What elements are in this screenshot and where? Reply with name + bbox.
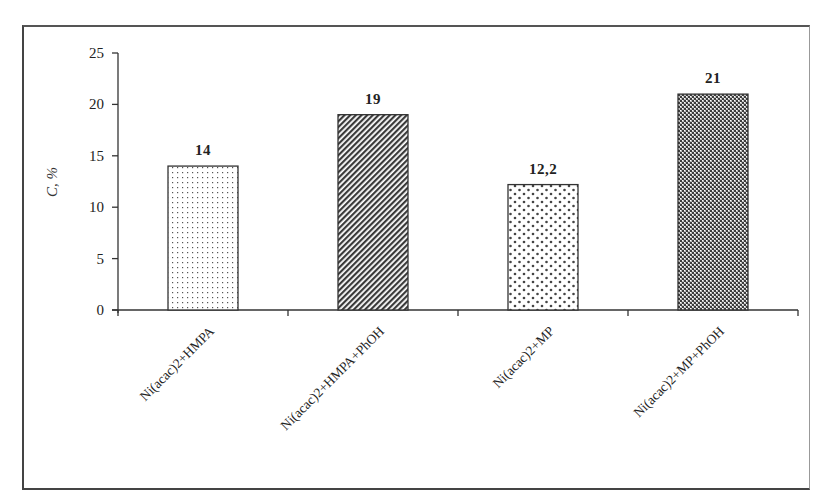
y-tick-label: 10: [89, 199, 104, 215]
bar-chart: 0510152025 141912,221 Ni(acac)2+HMPANi(a…: [0, 0, 830, 501]
bar-value-label: 14: [195, 142, 211, 158]
y-tick-label: 25: [89, 45, 104, 61]
category-label: Ni(acac)2+HMPA+PhOH: [278, 323, 388, 433]
x-axis: [112, 310, 798, 316]
bars: [168, 94, 748, 310]
y-axis-title: C, %: [44, 167, 60, 197]
bar: [338, 115, 408, 310]
bar-value-label: 12,2: [529, 161, 557, 177]
bar-value-label: 19: [365, 91, 381, 107]
category-labels: Ni(acac)2+HMPANi(acac)2+HMPA+PhOHNi(acac…: [137, 323, 727, 433]
y-tick-label: 15: [89, 148, 104, 164]
category-label: Ni(acac)2+MP: [490, 324, 557, 391]
bar: [678, 94, 748, 310]
y-tick-label: 0: [97, 302, 105, 318]
value-labels: 141912,221: [195, 70, 721, 176]
bar-value-label: 21: [705, 70, 721, 86]
category-label: Ni(acac)2+HMPA: [137, 323, 218, 404]
category-label: Ni(acac)2+MP+PhOH: [630, 323, 727, 420]
y-tick-label: 20: [89, 96, 104, 112]
bar: [508, 185, 578, 310]
y-tick-label: 5: [97, 251, 105, 267]
y-axis: 0510152025: [89, 45, 118, 318]
bar: [168, 166, 238, 310]
